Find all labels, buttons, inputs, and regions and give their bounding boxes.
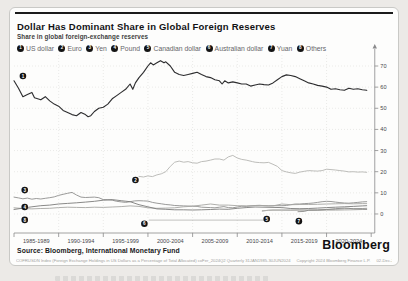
x-bin-label: 2015-2019 (291, 238, 318, 244)
y-tick-label: 0 (380, 211, 383, 217)
y-tick-label: 50 (380, 105, 386, 111)
series-marker-number: 1 (22, 74, 25, 79)
series-line-us-dollar (14, 61, 367, 117)
y-tick-label: 40 (380, 126, 386, 132)
y-tick-label: 60 (380, 84, 386, 90)
chart-subtitle: Share in global foreign-exchange reserve… (17, 33, 148, 40)
series-marker-number: 3 (23, 188, 26, 193)
y-tick-label: 70 (380, 63, 386, 69)
fineprint-timestamp: 02-Dec-2024 08:35:17 (377, 258, 392, 263)
source-text: Source: Bloomberg, International Monetar… (17, 247, 180, 254)
terminal-fineprint: COFRUSDN Index (Foreign Exchange Holding… (16, 258, 392, 263)
x-bin-label: 2000-2004 (157, 238, 184, 244)
x-bin-label: 1995-1999 (112, 238, 139, 244)
series-line-yen (14, 192, 367, 207)
fineprint-ticker: COFRUSDN Index (Foreign Exchange Holding… (16, 258, 291, 263)
series-marker-number: 8 (23, 218, 26, 223)
y-tick-label: 10 (380, 190, 386, 196)
cropped-caption-text (55, 276, 270, 281)
series-marker-number: 6 (143, 221, 146, 226)
series-marker-number: 2 (134, 178, 137, 183)
x-bin-label: 1990-1994 (68, 238, 95, 244)
series-marker-number: 7 (298, 219, 301, 224)
series-marker-number: 5 (265, 217, 268, 222)
y-tick-label: 30 (380, 148, 386, 154)
fineprint-copyright: Copyright 2024 Bloomberg Finance L.P. (297, 258, 371, 263)
top-rule (15, 12, 393, 14)
x-bin-label: 2010-2014 (246, 238, 273, 244)
chart-svg: 0102030405060701985-19891990-19941995-19… (13, 41, 397, 247)
y-tick-label: 20 (380, 169, 386, 175)
series-line-euro (139, 155, 367, 177)
chart-card: Dollar Has Dominant Share in Global Fore… (9, 7, 399, 266)
axis-up-arrow-icon (373, 44, 377, 49)
page-title: Dollar Has Dominant Share in Global Fore… (17, 21, 276, 32)
bloomberg-logo: Bloomberg (322, 238, 390, 252)
x-bin-label: 2005-2009 (202, 238, 229, 244)
reserves-line-chart: 0102030405060701985-19891990-19941995-19… (13, 41, 397, 247)
series-marker-number: 4 (23, 205, 26, 210)
x-bin-label: 1985-1989 (23, 238, 50, 244)
